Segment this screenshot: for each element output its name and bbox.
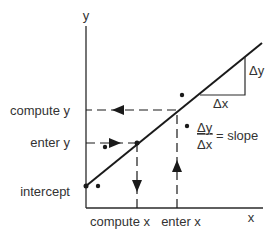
- data-point: [180, 93, 184, 97]
- down-arrow-icon: [132, 180, 142, 192]
- data-point: [185, 124, 189, 128]
- data-point: [96, 184, 100, 188]
- y-axis-label: y: [83, 8, 90, 23]
- intercept-point: [84, 184, 89, 189]
- slope-numerator: Δy: [197, 120, 213, 135]
- slope-denominator: Δx: [197, 137, 213, 152]
- slope-equals-label: = slope: [216, 128, 258, 143]
- regression-line: [86, 43, 262, 186]
- left-arrow-icon: [112, 105, 124, 115]
- linear-regression-diagram: y x Δy Δx Δy Δx = slope compute y enter …: [0, 0, 274, 240]
- x-axis-label: x: [248, 210, 255, 225]
- compute-x-label: compute x: [90, 214, 150, 229]
- intercept-label: intercept: [20, 184, 70, 199]
- compute-y-label: compute y: [10, 103, 70, 118]
- right-arrow-icon: [109, 138, 121, 148]
- data-point: [103, 145, 107, 149]
- enter-x-label: enter x: [161, 214, 201, 229]
- enter-y-intersection-point: [135, 141, 140, 146]
- enter-y-label: enter y: [30, 135, 70, 150]
- up-arrow-icon: [172, 160, 182, 172]
- delta-y-label: Δy: [249, 63, 265, 78]
- delta-x-label: Δx: [213, 96, 229, 111]
